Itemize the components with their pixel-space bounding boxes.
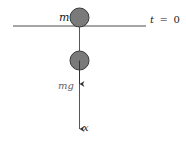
- gravity-force-label: mg: [58, 80, 74, 91]
- mass-label: m: [59, 11, 69, 24]
- mass-ball-initial: [70, 8, 89, 27]
- time-equals: =: [160, 14, 168, 25]
- x-axis-label: x: [83, 122, 89, 133]
- time-value: 0: [173, 14, 179, 25]
- time-variable: t: [150, 14, 155, 25]
- time-label: t = 0: [150, 14, 180, 25]
- free-fall-diagram: m t = 0 mg x: [0, 0, 186, 141]
